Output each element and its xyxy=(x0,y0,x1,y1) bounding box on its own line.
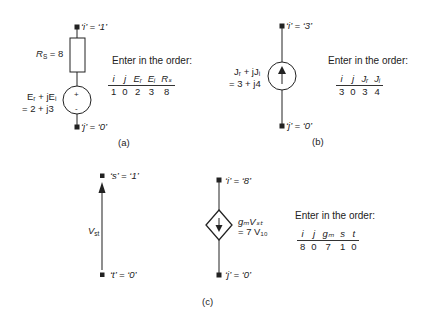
header-cell: i xyxy=(108,73,119,86)
header-cell: s xyxy=(337,228,348,241)
terminal-s-label: ‘s’ = ‘1’ xyxy=(110,170,139,181)
header-cell: j xyxy=(308,228,319,241)
value-cell: 4 xyxy=(371,86,383,99)
caption-c: (c) xyxy=(202,296,213,307)
terminal-j-b xyxy=(280,124,285,129)
header-cell: Eᵢ xyxy=(145,73,159,86)
control-voltage-label: Vst xyxy=(88,225,99,239)
value-cell: 3 xyxy=(336,86,347,99)
value-cell: 3 xyxy=(145,86,159,99)
header-cell: j xyxy=(347,73,358,86)
order-title-c: Enter in the order: xyxy=(295,210,375,221)
caption-a: (a) xyxy=(118,137,130,148)
terminal-s xyxy=(100,174,105,179)
terminal-t xyxy=(100,273,105,278)
value-cell: 0 xyxy=(347,86,358,99)
terminal-j-label-a: ‘j’ = ‘0’ xyxy=(81,121,107,132)
header-cell: t xyxy=(348,228,359,241)
value-cell: 1 xyxy=(337,241,348,254)
circuit-diagram xyxy=(0,0,424,312)
order-table-c: i j gₘ s t 8 0 7 1 0 xyxy=(297,228,359,253)
order-table-a: i j Eᵣ Eᵢ Rₛ 1 0 2 3 8 xyxy=(108,73,175,98)
resistor-rs xyxy=(70,38,85,72)
caption-b: (b) xyxy=(312,136,324,147)
value-cell: 1 xyxy=(108,86,119,99)
terminal-i-label-a: ‘i’ = ‘1’ xyxy=(81,21,107,32)
terminal-t-label: ‘t’ = ‘0’ xyxy=(110,269,137,280)
value-cell: 2 xyxy=(131,86,145,99)
terminal-i-b xyxy=(280,24,285,29)
order-title-a: Enter in the order: xyxy=(112,55,192,66)
terminal-j-label-b: ‘j’ = ‘0’ xyxy=(286,120,312,131)
terminal-j-a xyxy=(75,125,80,130)
terminal-i-c xyxy=(217,178,222,183)
header-cell: i xyxy=(336,73,347,86)
source-label-a-line2: = 2 + j3 xyxy=(22,103,54,114)
header-cell: Jᵣ xyxy=(359,73,372,86)
order-title-b: Enter in the order: xyxy=(328,55,408,66)
source-label-a-line1: Eᵣ + jEᵢ xyxy=(27,91,56,102)
source-label-b-line2: = 3 + j4 xyxy=(229,78,261,89)
header-cell: Rₛ xyxy=(158,73,175,86)
resistor-label: RS = 8 xyxy=(36,48,63,62)
voltage-arrow-up-icon xyxy=(99,182,106,193)
value-cell: 7 xyxy=(320,241,337,254)
value-cell: 0 xyxy=(119,86,130,99)
header-cell: j xyxy=(119,73,130,86)
panel-b-circuit xyxy=(268,26,296,126)
plus-sign: + xyxy=(74,89,79,100)
order-table-b: i j Jᵣ Jᵢ 3 0 3 4 xyxy=(336,73,383,98)
terminal-j-label-c: ‘j’ = ‘0’ xyxy=(225,269,251,280)
header-cell: Eᵣ xyxy=(131,73,145,86)
source-label-c-line2: = 7 V₁₀ xyxy=(238,226,268,237)
value-cell: 3 xyxy=(359,86,372,99)
terminal-i-label-c: ‘i’ = ‘8’ xyxy=(225,175,251,186)
value-cell: 8 xyxy=(297,241,308,254)
header-cell: i xyxy=(297,228,308,241)
header-cell: gₘ xyxy=(320,228,337,241)
terminal-i-label-b: ‘i’ = ‘3’ xyxy=(286,20,312,31)
header-cell: Jᵢ xyxy=(371,73,383,86)
value-cell: 0 xyxy=(308,241,319,254)
source-label-b-line1: Jᵣ + jJᵢ xyxy=(234,66,260,77)
terminal-i-a xyxy=(75,25,80,30)
minus-sign: - xyxy=(75,103,78,114)
terminal-j-c xyxy=(217,273,222,278)
value-cell: 0 xyxy=(348,241,359,254)
value-cell: 8 xyxy=(158,86,175,99)
